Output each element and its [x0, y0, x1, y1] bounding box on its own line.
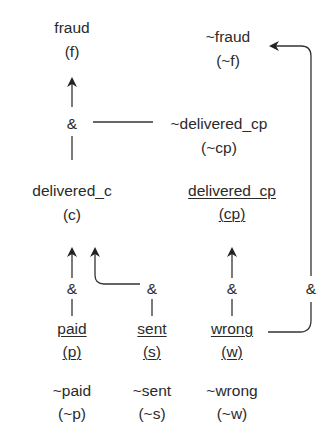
node-delivered-cp: delivered_cp (cp) — [188, 182, 276, 223]
node-paid: paid (p) — [57, 320, 86, 361]
node-not-wrong-abbr: (~w) — [206, 405, 257, 423]
node-not-fraud-abbr: (~f) — [206, 52, 250, 70]
node-not-delivered-cp-name: ~delivered_cp — [171, 115, 268, 133]
node-delivered-c-abbr: (c) — [32, 206, 111, 224]
node-delivered-c-name: delivered_c — [32, 182, 111, 200]
node-not-delivered-cp: ~delivered_cp (~cp) — [171, 115, 268, 157]
node-fraud-name: fraud — [54, 19, 89, 37]
node-paid-abbr: (p) — [57, 343, 86, 361]
node-not-wrong: ~wrong (~w) — [206, 382, 257, 423]
node-not-sent-name: ~sent — [133, 382, 171, 400]
node-delivered-cp-name: delivered_cp — [188, 182, 276, 200]
node-not-delivered-cp-abbr: (~cp) — [171, 139, 268, 157]
node-sent: sent (s) — [137, 320, 166, 361]
node-not-paid: ~paid (~p) — [53, 382, 91, 423]
diagram-edges — [0, 0, 333, 448]
node-sent-abbr: (s) — [137, 343, 166, 361]
and-operator-delivered-c-sent: & — [147, 280, 157, 298]
node-not-wrong-name: ~wrong — [206, 382, 257, 400]
edge-and-sent-to-delivered-c — [95, 252, 140, 284]
node-sent-name: sent — [137, 320, 166, 338]
and-operator-delivered-cp: & — [227, 280, 237, 298]
node-fraud: fraud (f) — [54, 19, 89, 61]
node-not-sent: ~sent (~s) — [133, 382, 171, 423]
node-not-sent-abbr: (~s) — [133, 405, 171, 423]
and-operator-fraud: & — [67, 115, 77, 133]
node-not-paid-abbr: (~p) — [53, 405, 91, 423]
node-wrong: wrong (w) — [211, 320, 253, 361]
node-not-paid-name: ~paid — [53, 382, 91, 400]
node-paid-name: paid — [57, 320, 86, 338]
node-delivered-c: delivered_c (c) — [32, 182, 111, 224]
node-wrong-name: wrong — [211, 320, 253, 338]
node-not-fraud: ~fraud (~f) — [206, 28, 250, 70]
node-fraud-abbr: (f) — [54, 43, 89, 61]
node-wrong-abbr: (w) — [211, 343, 253, 361]
and-operator-not-fraud: & — [306, 280, 316, 298]
and-operator-delivered-c-paid: & — [67, 280, 77, 298]
edge-wrong-to-and-right — [268, 302, 311, 332]
edge-and-to-not-fraud — [274, 46, 311, 276]
node-delivered-cp-abbr: (cp) — [188, 205, 276, 223]
node-not-fraud-name: ~fraud — [206, 28, 250, 46]
